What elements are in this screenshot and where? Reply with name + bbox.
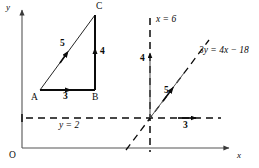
geometry-diagram: y x O A B C 3 4 5 y = 2 x = 6 3y = 4x − … — [0, 0, 259, 168]
triangle-side-ab-length-label: 3 — [63, 92, 68, 102]
origin-label: O — [9, 151, 16, 161]
y-axis-label: y — [6, 3, 10, 12]
line-x-equals-6-label: x = 6 — [156, 15, 176, 25]
line-y-equals-2 — [22, 114, 221, 122]
vertical-vector-4-label: 4 — [140, 54, 145, 64]
x-axis-label: x — [237, 151, 241, 160]
triangle-side-ac — [40, 15, 95, 90]
triangle-side-ac-length-label: 5 — [60, 39, 65, 49]
axis-group — [22, 10, 229, 148]
triangle-abc — [40, 15, 95, 90]
triangle-vertex-c-label: C — [96, 2, 102, 12]
triangle-vertex-a-label: A — [31, 93, 38, 103]
triangle-vertex-b-label: B — [92, 93, 98, 103]
line-3y-equals-4x-minus-18-label: 3y = 4x − 18 — [199, 46, 249, 56]
triangle-ac-direction-arrow — [60, 53, 67, 63]
line-y-equals-2-label: y = 2 — [59, 121, 79, 131]
horizontal-vector-3-label: 3 — [183, 121, 188, 131]
oblique-vector-5-label: 5 — [164, 86, 169, 96]
diagram-canvas — [0, 0, 259, 168]
triangle-side-bc-length-label: 4 — [100, 47, 105, 57]
